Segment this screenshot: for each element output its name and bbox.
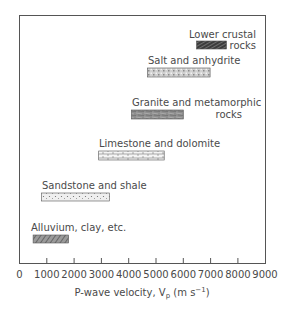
bar-alluvium [33,235,69,243]
tick-label: 2000 [61,269,86,280]
tick-label: 1000 [34,269,59,280]
label-salt: Salt and anhydrite [148,55,240,66]
tick-label: 8000 [225,269,250,280]
label-lower-crustal-2: rocks [229,40,256,51]
label-lower-crustal: Lower crustal [189,29,256,40]
bar-limestone [99,151,165,160]
label-limestone: Limestone and dolomite [99,138,220,149]
tick-label: 9000 [252,269,277,280]
label-sandstone: Sandstone and shale [42,180,147,191]
bar-granite [131,110,183,119]
bar-salt [147,68,210,77]
tick-label: 0 [16,269,22,280]
label-alluvium: Alluvium, clay, etc. [31,222,126,233]
x-axis-label: P-wave velocity, Vp (m s−1) [74,286,209,300]
bar-sandstone [41,193,109,201]
tick-label: 6000 [171,269,196,280]
tick-label: 5000 [143,269,168,280]
label-granite-2: rocks [215,109,242,120]
velocity-range-chart: 0 1000 2000 3000 4000 5000 6000 7000 800… [0,0,287,315]
tick-label: 3000 [89,269,114,280]
tick-label: 7000 [198,269,223,280]
x-axis-ticks [47,258,238,263]
tick-label: 4000 [116,269,141,280]
bar-lower-crustal [197,41,227,49]
label-granite: Granite and metamorphic [132,97,261,108]
x-axis-tick-labels: 0 1000 2000 3000 4000 5000 6000 7000 800… [16,269,277,280]
